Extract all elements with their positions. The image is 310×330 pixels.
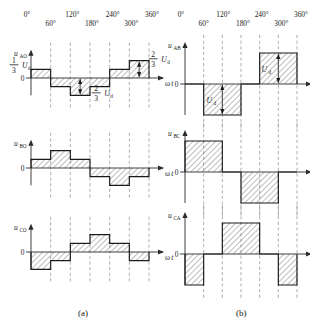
angle-tick-120deg: 120° [216,10,230,19]
x-axis-arrow [158,166,164,171]
y-axis-label-subscript: CO [19,227,26,233]
x-axis-label-omega: ω [165,79,170,88]
waveform-hatch-segment [129,252,149,261]
angle-tick-60deg: 60° [45,19,55,28]
waveform-hatch-segment [51,151,71,168]
waveform-hatch-segment [70,159,90,168]
angle-tick-240deg: 240° [255,10,269,19]
waveform-hatch-segment [241,172,260,203]
waveform-hatch-segment [31,159,51,168]
fraction-denominator: 3 [151,60,155,69]
y-axis-label-main: u [168,41,172,50]
angle-tick-300deg: 300° [124,19,138,28]
angle-tick-0deg: 0° [24,10,31,19]
ud-unit-subscript: d [269,69,272,75]
angle-tick-360deg: 360° [145,10,159,19]
fraction-denominator: 3 [12,66,16,75]
x-axis-arrow [306,252,310,257]
y-axis-arrow [28,140,33,146]
y-axis-arrow [28,50,33,56]
y-axis-arrow [28,224,33,230]
ud-unit: U [207,96,213,105]
y-axis-label-subscript: CA [173,215,180,221]
waveform-hatch-segment [129,168,149,177]
y-axis-arrow [182,130,187,136]
waveform-hatch-segment [90,78,110,87]
waveform-hatch-segment [70,243,90,252]
waveform-hatch-segment [31,69,51,78]
angle-tick-180deg: 180° [236,19,250,28]
y-axis-label-main: u [168,129,172,138]
fraction-unit-subscript: d [167,59,170,65]
angle-tick-240deg: 240° [106,10,120,19]
fraction-unit-subscript: d [28,65,31,71]
zero-label: 0 [175,168,179,177]
x-axis-label-omega: ω [165,169,170,178]
waveform-hatch-segment [51,252,71,261]
angle-tick-120deg: 120° [65,10,79,19]
waveform-hatch-segment [241,223,260,254]
x-axis-arrow [306,82,310,87]
y-axis-arrow [182,212,187,218]
waveform-u_BC [185,141,297,203]
zero-label: 0 [21,74,25,83]
waveform-hatch-segment [222,223,241,254]
y-axis-label-main: u [168,211,172,220]
x-axis-label-omega: ω [165,253,170,262]
x-axis-arrow [158,76,164,81]
y-axis-label: uCO [14,223,27,233]
y-axis-label: uCA [168,211,181,221]
y-axis-label: uAB [168,41,181,51]
y-axis-label-main: u [14,223,18,232]
y-axis-label: uBC [168,129,181,139]
zero-label: 0 [21,248,25,257]
waveform-hatch-segment [260,172,279,203]
y-axis-label-subscript: BC [173,133,180,139]
waveform-hatch-segment [185,141,204,172]
y-axis-label: uBO [14,139,27,149]
fraction-numerator: 2 [94,84,98,93]
waveform-hatch-segment [204,141,223,172]
angle-tick-labels: 0°60°120°180°240°300°360° [24,10,159,28]
angle-tick-0deg: 0° [178,10,185,19]
ud-unit-subscript: d [214,100,217,106]
zero-label: 0 [21,164,25,173]
fraction-numerator: 1 [12,56,16,65]
waveform-hatch-segment [51,78,71,87]
angle-tick-360deg: 360° [294,10,308,19]
waveform-u_AB [185,53,297,115]
waveform-hatch-segment [110,69,130,78]
x-axis-label: ωt [165,79,174,88]
subfigure-caption-b: (b) [236,308,247,318]
waveform-hatch-segment [110,243,130,252]
waveform-hatch-segment [90,235,110,252]
x-axis-label-t: t [171,253,174,262]
angle-tick-300deg: 300° [274,19,288,28]
y-axis-label: uAO [14,49,27,59]
fraction-denominator: 3 [94,94,98,103]
y-axis-label-subscript: AB [173,45,181,51]
waveform-figure: uAOωt0uBOωt0uCOωt00°60°120°180°240°300°3… [0,0,310,330]
annotation-two-thirds-ud-AO: 23Ud [149,50,170,69]
x-axis-arrow [158,250,164,255]
figure-canvas: uAOωt0uBOωt0uCOωt00°60°120°180°240°300°3… [0,0,310,330]
fraction-unit-subscript: d [110,93,113,99]
x-axis-label-t: t [171,169,174,178]
angle-tick-60deg: 60° [198,19,208,28]
x-axis-arrow [306,170,310,175]
y-axis-label-subscript: BO [19,143,26,149]
waveform-hatch-segment [110,168,130,185]
y-axis-label-subscript: AO [19,53,27,59]
y-axis-arrow [182,42,187,48]
angle-tick-180deg: 180° [85,19,99,28]
fraction-numerator: 2 [151,50,155,59]
x-axis-label-t: t [171,79,174,88]
waveform-hatch-segment [222,84,241,115]
waveform-hatch-segment [90,168,110,177]
waveform-u_CA [185,223,297,285]
zero-label: 0 [175,250,179,259]
subfigure-caption-a: (a) [78,308,88,318]
zero-label: 0 [175,80,179,89]
y-axis-label-main: u [14,139,18,148]
ud-unit: U [262,65,268,74]
